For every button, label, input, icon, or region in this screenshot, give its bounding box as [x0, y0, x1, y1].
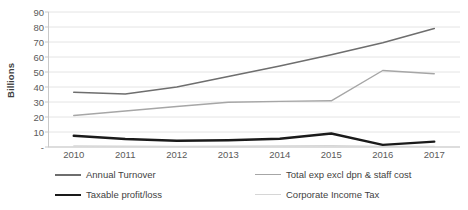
y-axis-tick-label: 20 [33, 112, 44, 123]
y-axis-tick-label: 70 [33, 37, 44, 48]
legend-item[interactable]: Corporate Income Tax [255, 189, 379, 200]
legend-item[interactable]: Taxable profit/loss [55, 189, 162, 200]
legend-item[interactable]: Annual Turnover [55, 169, 156, 180]
y-axis-tick-label: 80 [33, 22, 44, 33]
y-axis-tick-label: 30 [33, 97, 44, 108]
x-axis-tick-label: 2011 [115, 149, 135, 160]
legend-item-label: Total exp excl dpn & staff cost [286, 169, 412, 180]
series-line-corporate-income-tax [74, 146, 435, 147]
x-axis-tick-label: 2013 [218, 149, 239, 160]
legend-item-label: Corporate Income Tax [286, 189, 379, 200]
plot-area [48, 12, 460, 147]
legend-item[interactable]: Total exp excl dpn & staff cost [255, 169, 412, 180]
y-axis-title-label: Billions [6, 62, 17, 97]
y-axis-tick-label: 60 [33, 52, 44, 63]
series-line-taxable-profit-loss [74, 134, 435, 145]
y-axis-tick-label: - [41, 142, 44, 153]
x-axis-tick-label: 2010 [63, 149, 84, 160]
legend-line-swatch-icon [55, 174, 81, 176]
y-axis-tick-label: 50 [33, 67, 44, 78]
y-axis-title: Billions [0, 0, 22, 160]
x-axis-tick-label: 2016 [372, 149, 393, 160]
x-axis-tick-labels: 20102011201220132014201520162017 [48, 149, 460, 165]
legend-line-swatch-icon [255, 174, 281, 175]
legend-line-swatch-icon [255, 194, 281, 195]
x-axis-tick-label: 2012 [166, 149, 187, 160]
series-line-annual-turnover [74, 29, 435, 95]
legend-item-label: Annual Turnover [86, 169, 156, 180]
y-axis-tick-label: 40 [33, 82, 44, 93]
legend-line-swatch-icon [55, 194, 81, 196]
y-axis-tick-labels: 908070605040302010- [22, 12, 46, 147]
chart-legend: Annual TurnoverTotal exp excl dpn & staf… [55, 169, 455, 207]
x-axis-tick-label: 2017 [424, 149, 445, 160]
line-chart: Billions 908070605040302010- 20102011201… [0, 0, 468, 210]
x-axis-tick-label: 2014 [269, 149, 290, 160]
plot-svg [48, 12, 460, 147]
x-axis-tick-label: 2015 [321, 149, 342, 160]
legend-item-label: Taxable profit/loss [86, 189, 162, 200]
y-axis-tick-label: 90 [33, 7, 44, 18]
y-axis-tick-label: 10 [33, 127, 44, 138]
